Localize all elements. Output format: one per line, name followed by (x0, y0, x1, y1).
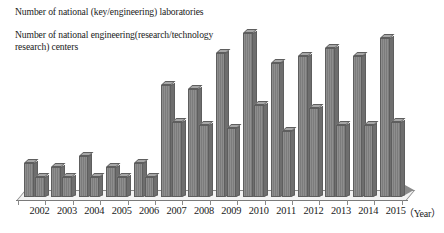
x-axis-tick-label: 2015 (380, 205, 412, 216)
bar-2007-series1 (161, 85, 171, 197)
bar-2002-series2 (35, 177, 45, 197)
bar-front-face (309, 108, 319, 197)
bar-front-face (282, 131, 292, 197)
bar-front-face (254, 105, 264, 197)
bar-2011-series1 (271, 63, 281, 197)
bar-2007-series2 (172, 122, 182, 197)
bar-2003-series2 (62, 177, 72, 197)
bar-front-face (298, 56, 308, 197)
bar-2015-series1 (380, 38, 390, 197)
bar-front-face (325, 48, 335, 197)
bar-side-face (154, 175, 158, 197)
bar-2006-series1 (134, 163, 144, 197)
bar-2014-series1 (353, 56, 363, 197)
bar-2015-series2 (391, 122, 401, 197)
bar-2012-series1 (298, 56, 308, 197)
bar-side-face (373, 123, 377, 197)
bar-front-face (271, 63, 281, 197)
bar-side-face (264, 103, 268, 197)
bar-2004-series1 (79, 156, 89, 197)
bar-chart: Number of national (key/engineering) lab… (0, 0, 444, 233)
bar-front-face (79, 156, 89, 197)
bar-side-face (319, 106, 323, 196)
bar-2008-series2 (199, 125, 209, 197)
bar-2009-series2 (227, 128, 237, 197)
bar-front-face (188, 89, 198, 197)
bar-front-face (35, 177, 45, 197)
bar-front-face (117, 177, 127, 197)
bar-front-face (243, 33, 253, 197)
bar-front-face (216, 53, 226, 197)
bar-front-face (336, 125, 346, 197)
bar-side-face (45, 175, 49, 197)
bar-front-face (145, 177, 155, 197)
bar-2005-series1 (106, 167, 116, 197)
bar-2006-series2 (145, 177, 155, 197)
plot-area (0, 0, 444, 233)
bar-side-face (236, 126, 240, 197)
bar-front-face (199, 125, 209, 197)
bar-side-face (401, 120, 405, 197)
bar-front-face (134, 163, 144, 197)
bar-2010-series1 (243, 33, 253, 197)
bar-2008-series1 (188, 89, 198, 197)
bar-front-face (90, 177, 100, 197)
bar-side-face (209, 123, 213, 197)
bar-2004-series2 (90, 177, 100, 197)
bar-side-face (72, 175, 76, 197)
bar-2002-series1 (24, 163, 34, 197)
bar-2013-series1 (325, 48, 335, 197)
bar-front-face (62, 177, 72, 197)
bar-2009-series1 (216, 53, 226, 197)
bar-front-face (106, 167, 116, 197)
bar-2014-series2 (364, 125, 374, 197)
bar-front-face (353, 56, 363, 197)
bar-front-face (51, 167, 61, 197)
bar-front-face (364, 125, 374, 197)
bar-2003-series1 (51, 167, 61, 197)
bar-side-face (127, 175, 131, 197)
bar-front-face (172, 122, 182, 197)
bars-layer (0, 0, 444, 233)
bar-2013-series2 (336, 125, 346, 197)
bar-front-face (391, 122, 401, 197)
bar-2011-series2 (282, 131, 292, 197)
bar-front-face (227, 128, 237, 197)
bar-2012-series2 (309, 108, 319, 197)
bar-side-face (99, 175, 103, 197)
bar-front-face (161, 85, 171, 197)
bar-front-face (24, 163, 34, 197)
x-axis-labels: （Year） 200220032004200520062007200820092… (0, 205, 444, 227)
bar-2010-series2 (254, 105, 264, 197)
bar-2005-series2 (117, 177, 127, 197)
bar-side-face (182, 120, 186, 197)
bar-side-face (291, 129, 295, 197)
bar-front-face (380, 38, 390, 197)
bar-side-face (346, 123, 350, 197)
